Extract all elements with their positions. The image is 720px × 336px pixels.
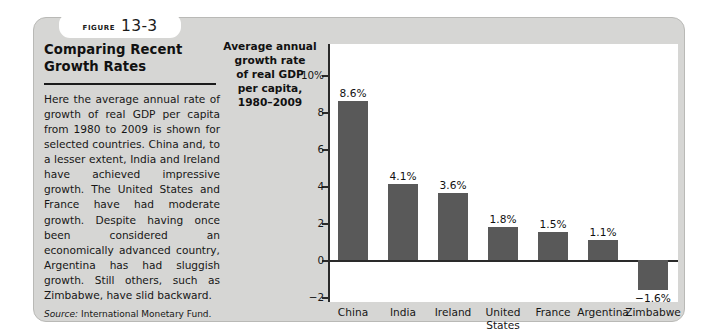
panel-source: Source: International Monetary Fund. — [44, 309, 224, 321]
bar-ireland — [438, 193, 468, 260]
source-text: International Monetary Fund. — [78, 309, 211, 319]
x-label-united-states: United States — [486, 306, 521, 331]
zero-baseline — [328, 260, 678, 262]
y-tick-label: 6 — [317, 143, 324, 155]
bar-zimbabwe — [638, 260, 668, 290]
panel-title: Comparing Recent Growth Rates — [44, 42, 224, 76]
y-tick-label: 0 — [317, 254, 324, 266]
x-label-india: India — [390, 306, 416, 319]
source-label: Source: — [44, 309, 78, 319]
bar-united-states — [488, 227, 518, 260]
y-tick-label: 10% — [301, 69, 324, 81]
y-tick-label: 4 — [317, 180, 324, 192]
x-label-zimbabwe: Zimbabwe — [625, 306, 681, 319]
bar-value-label: 4.1% — [390, 170, 417, 182]
panel-divider — [44, 83, 216, 85]
bar-value-label: 1.5% — [540, 218, 567, 230]
y-tick-label: 8 — [317, 106, 324, 118]
plot-background — [328, 44, 678, 302]
x-axis-labels: ChinaIndiaIrelandUnited StatesFranceArge… — [296, 306, 678, 336]
bar-india — [388, 184, 418, 260]
x-label-china: China — [338, 306, 368, 319]
figure-badge: Figure 13-3 — [59, 13, 181, 38]
x-label-ireland: Ireland — [435, 306, 472, 319]
y-tick-label: −2 — [309, 291, 324, 303]
bar-value-label: 3.6% — [440, 179, 467, 191]
bar-france — [538, 232, 568, 260]
figure-card: Figure 13-3 Comparing Recent Growth Rate… — [33, 17, 685, 322]
figure-badge-word: Figure — [83, 20, 116, 32]
bar-value-label: −1.6% — [635, 292, 671, 304]
bar-value-label: 1.1% — [590, 226, 617, 238]
bar-value-label: 1.8% — [490, 213, 517, 225]
x-label-france: France — [535, 306, 570, 319]
x-label-argentina: Argentina — [577, 306, 629, 319]
y-axis-line — [328, 44, 330, 302]
bar-china — [338, 101, 368, 260]
figure-caption-panel: Comparing Recent Growth Rates Here the a… — [44, 42, 224, 321]
chart-plot-area: 10%86420−2 8.6%4.1%3.6%1.8%1.5%1.1%−1.6% — [296, 44, 678, 302]
bar-value-label: 8.6% — [340, 87, 367, 99]
y-tick-label: 2 — [317, 217, 324, 229]
bar-argentina — [588, 240, 618, 260]
figure-badge-number: 13-3 — [121, 17, 157, 35]
panel-body-text: Here the average annual rate of growth o… — [44, 92, 220, 303]
